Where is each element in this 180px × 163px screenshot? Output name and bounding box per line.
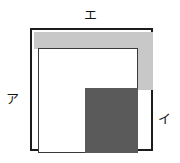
- dark-gray-square: [85, 88, 138, 153]
- label-right-i: イ: [158, 112, 171, 125]
- light-gray-top-band: [34, 32, 153, 49]
- outer-square: [30, 28, 153, 151]
- label-left-a: ア: [6, 92, 19, 105]
- light-gray-right-band: [138, 32, 153, 90]
- label-top-e: エ: [0, 8, 180, 21]
- figure-canvas: エ ア イ: [0, 0, 180, 163]
